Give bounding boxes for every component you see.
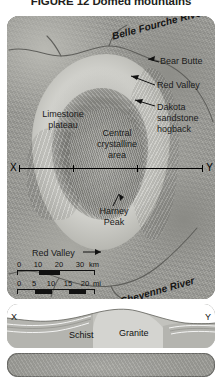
section-line-label-x: X: [10, 162, 17, 173]
label-harney-peak: Harney Peak: [91, 206, 137, 228]
km-tick-20: 20: [55, 260, 63, 269]
mi-tick-20: 20: [81, 279, 89, 288]
scale-bar-kilometers: 0 10 20 30 km: [17, 260, 113, 279]
label-bear-butte: Bear Butte: [160, 56, 204, 67]
cross-section-label-y: Y: [205, 312, 211, 322]
mi-bar-graphic: [17, 289, 95, 294]
scale-bar-miles: 0 5 10 15 20 mi: [17, 279, 113, 298]
next-figure-panel-clipped: [7, 353, 215, 377]
next-panel-terrain: [7, 353, 215, 377]
label-limestone-plateau: Limestone plateau: [32, 109, 94, 131]
section-line-label-y: Y: [206, 162, 213, 173]
cross-section-label-schist: Schist: [69, 330, 94, 340]
section-tick-end: [202, 165, 203, 172]
map-section-line: X Y: [7, 164, 215, 174]
figure-title: FIGURE 12 Domed mountains: [0, 0, 222, 10]
mi-tick-5: 5: [32, 279, 36, 288]
label-red-valley-northeast: Red Valley: [157, 80, 200, 90]
cross-section-label-x: X: [11, 312, 17, 322]
km-bar-graphic: [17, 270, 95, 275]
section-tick-mid-right: [137, 165, 138, 172]
mi-tick-10: 10: [47, 279, 55, 288]
map-scale-bars: 0 10 20 30 km 0 5 10 15 20 mi: [17, 260, 113, 298]
mi-unit: mi: [93, 279, 101, 288]
relief-map-panel: Belle Fourche River Bear Butte Red Valle…: [7, 16, 215, 299]
label-central-crystalline-area: Central crystalline area: [89, 128, 145, 161]
km-tick-30: 30: [76, 260, 84, 269]
mi-tick-15: 15: [64, 279, 72, 288]
mi-bar-segment-b: [69, 290, 86, 294]
km-tick-0: 0: [17, 260, 21, 269]
section-tick-mid-left: [73, 165, 74, 172]
section-tick-start: [19, 165, 20, 172]
mi-bar-segment-a: [35, 290, 52, 294]
cross-section-label-granite: Granite: [119, 328, 149, 338]
cross-section-panel: X Y Schist Granite: [7, 304, 215, 348]
label-dakota-sandstone-hogback: Dakota sandstone hogback: [157, 102, 213, 135]
label-red-valley-southwest: Red Valley: [32, 248, 75, 258]
km-tick-10: 10: [34, 260, 42, 269]
cross-section-profile: [7, 304, 215, 348]
section-line-bar: [19, 168, 203, 169]
km-bar-segment: [39, 271, 60, 275]
km-unit: km: [89, 260, 99, 269]
mi-tick-0: 0: [17, 279, 21, 288]
